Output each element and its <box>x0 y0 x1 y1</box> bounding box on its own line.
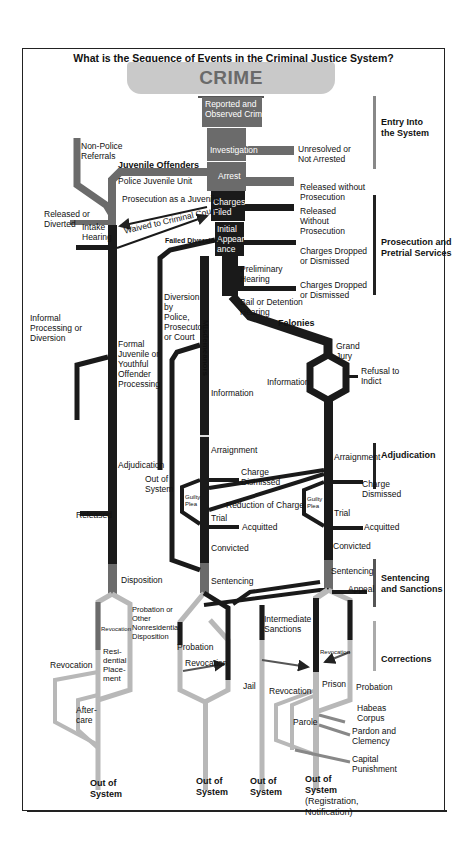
exit-released-without-prosecution-1: Released withoutProsecution <box>300 182 365 202</box>
node-information-felony: Information <box>267 377 310 387</box>
node-disposition: Disposition <box>121 575 163 585</box>
label-misd-revocation: Revocation <box>185 658 228 668</box>
node-felony-arraignment: Arraignment <box>334 452 380 462</box>
node-investigation: Investigation <box>210 145 258 155</box>
section-prosecution: Prosecution andPretrial Services <box>381 237 452 259</box>
label-juvenile-revocation: Revocation <box>50 660 93 670</box>
exit-juvenile-out-of-system: Out ofSystem <box>90 778 122 800</box>
section-entry: Entry Intothe System <box>381 117 429 139</box>
node-probation-nonresidential: Probation orOtherNonresidentialDispositi… <box>132 605 180 641</box>
node-bail-hearing: Bail or DetentionHearing <box>240 297 303 317</box>
node-felony-guilty-plea: GuiltyPlea <box>307 496 322 510</box>
crime-banner: CRIME <box>127 62 335 94</box>
node-informal-processing: InformalProcessing orDiversion <box>30 313 82 343</box>
exit-felony-acquitted: Acquitted <box>364 522 399 532</box>
node-formal-juvenile-processing: FormalJuvenile orYouthfulOffenderProcess… <box>118 339 160 389</box>
node-felony-probation: Probation <box>356 682 392 692</box>
section-corrections: Corrections <box>381 654 432 665</box>
label-juvenile-revocation-small: Revocation <box>101 624 131 634</box>
exit-pardon-clemency: Pardon andClemency <box>352 726 396 746</box>
node-misd-guilty-plea: GuiltyPlea <box>185 494 200 508</box>
section-sentencing: Sentencingand Sanctions <box>381 573 443 595</box>
node-residential-placement: Resi-dentialPlace-ment <box>103 647 127 683</box>
node-aftercare: After-care <box>76 705 97 725</box>
node-juvenile-adjudication: Adjudication <box>118 460 164 470</box>
exit-released-without-prosecution-2: ReleasedWithoutProsecution <box>300 206 345 236</box>
exit-felony-charge-dismissed: ChargeDismissed <box>362 479 401 499</box>
node-reported-crime: Reported andObserved Crime <box>205 99 267 119</box>
label-failed-diversion: Failed Diversion <box>165 236 219 246</box>
exit-juvenile-released: Released <box>76 510 112 520</box>
node-misd-arraignment: Arraignment <box>211 445 257 455</box>
label-appeal: Appeal <box>348 584 374 594</box>
node-diversion: DiversionbyPolice,Prosecutoror Court <box>164 292 205 342</box>
node-initial-appearance: InitialAppear-ance <box>217 224 247 254</box>
label-felony-revocation-small: Revocation <box>320 647 350 657</box>
exit-diversion-out-of-system: Out ofSystem <box>145 474 173 494</box>
node-non-police-referrals: Non-PoliceReferrals <box>81 141 123 161</box>
exit-charges-dropped-2: Charges Droppedor Dismissed <box>300 280 367 300</box>
node-prison: Prison <box>322 679 346 689</box>
exit-intermediate-out-of-system: Out ofSystem <box>250 776 282 798</box>
node-information-misd: Information <box>211 388 254 398</box>
node-intermediate-sanctions: IntermediateSanctions <box>264 614 311 634</box>
node-intake-hearing: IntakeHearing <box>82 222 112 242</box>
node-parole: Parole <box>293 717 318 727</box>
node-misd-sentencing: Sentencing <box>211 576 254 586</box>
exit-misd-acquitted: Acquitted <box>242 522 277 532</box>
exit-charges-dropped-1: Charges Droppedor Dismissed <box>300 246 367 266</box>
exit-misd-charge-dismissed: ChargeDismissed <box>241 467 280 487</box>
node-felony-sentencing: Sentencing <box>331 566 374 576</box>
node-misd-convicted: Convicted <box>211 543 249 553</box>
exit-misd-out-of-system: Out ofSystem <box>196 776 228 798</box>
node-misd-trial: Trial <box>211 513 227 523</box>
label-juvenile-offenders: Juvenile Offenders <box>118 160 199 171</box>
label-prosecution-as-juvenile: Prosecution as a Juvenile <box>122 194 219 204</box>
label-felony-revocation: Revocation <box>269 686 312 696</box>
exit-habeas-corpus: HabeasCorpus <box>357 703 386 723</box>
node-police-juvenile-unit: Police Juvenile Unit <box>118 176 192 186</box>
node-preliminary-hearing: PreliminaryHearing <box>240 264 283 284</box>
node-grand-jury: GrandJury <box>336 341 360 361</box>
node-misd-probation: Probation <box>177 642 213 652</box>
node-jail: Jail <box>243 681 256 691</box>
node-arrest: Arrest <box>218 171 241 181</box>
exit-prison-out-of-system: Out ofSystem(Registration,Notification) <box>305 774 359 818</box>
label-felonies: Felonies <box>278 318 315 329</box>
node-refusal-to-indict: Refusal toIndict <box>361 366 399 386</box>
node-felony-trial: Trial <box>334 508 350 518</box>
section-adjudication: Adjudication <box>381 450 436 461</box>
exit-capital-punishment: CapitalPunishment <box>352 754 397 774</box>
exit-unresolved: Unresolved orNot Arrested <box>298 144 351 164</box>
label-reduction-of-charge: Reduction of Charge <box>226 500 304 510</box>
node-felony-convicted: Convicted <box>333 541 371 551</box>
